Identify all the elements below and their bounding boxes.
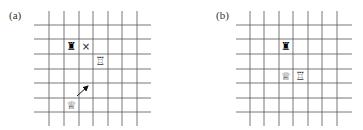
white-rook-icon: ♖: [96, 55, 106, 68]
chess-boards: ♜×♖♕ ♜♕♖: [0, 0, 363, 130]
panel-b-board: ♜♕♖: [236, 11, 352, 126]
black-rook-icon: ♜: [67, 40, 77, 53]
black-rook-icon: ♜: [281, 40, 291, 53]
panel-a-board: ♜×♖♕: [34, 11, 151, 126]
white-queen-icon: ♕: [67, 99, 77, 112]
white-rook-icon: ♖: [296, 70, 306, 83]
white-queen-icon: ♕: [281, 70, 291, 83]
capture-mark-icon: ×: [82, 41, 90, 52]
